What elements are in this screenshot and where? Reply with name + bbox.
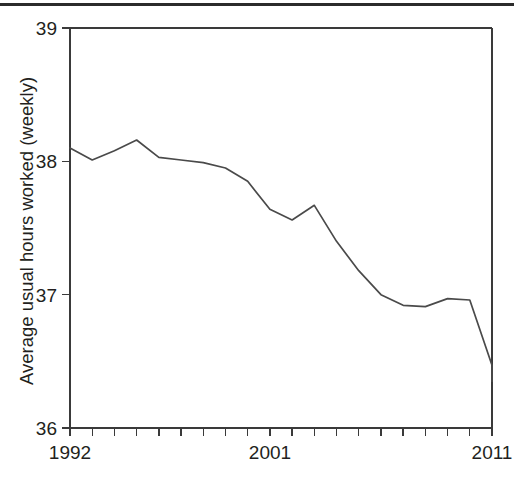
x-axis-tick-labels: 1992 2001 2011 [49, 442, 513, 463]
data-series-line [70, 140, 492, 381]
x-tick-label-2011: 2011 [472, 442, 513, 463]
x-axis-ticks [70, 428, 492, 436]
x-tick-label-1992: 1992 [49, 442, 91, 463]
y-axis-title: Average usual hours worked (weekly) [16, 77, 37, 385]
line-chart: Average usual hours worked (weekly) 39 3… [0, 0, 514, 486]
y-axis-tick-labels: 39 38 37 36 [36, 18, 57, 439]
y-tick-label-38: 38 [36, 151, 57, 172]
y-tick-label-37: 37 [36, 285, 57, 306]
clipped-caption-sliver [24, 480, 224, 486]
figure-container: Average usual hours worked (weekly) 39 3… [0, 0, 514, 486]
y-tick-label-36: 36 [36, 418, 57, 439]
y-tick-label-39: 39 [36, 18, 57, 39]
y-axis-ticks [62, 28, 70, 428]
x-tick-label-2001: 2001 [249, 442, 291, 463]
